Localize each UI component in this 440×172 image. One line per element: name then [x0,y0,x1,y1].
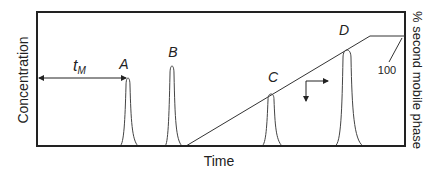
max-gradient-label: 100 [378,64,396,76]
right-axis-label: % second mobile phase [410,11,425,149]
peak-b [165,66,182,146]
peak-d [335,50,363,146]
dead-time-label: tM [73,57,86,76]
y-axis-label: Concentration [15,36,31,123]
x-axis-label: Time [204,153,235,169]
peak-label-b: B [168,44,177,60]
peak-a [120,78,138,146]
plot-frame [37,12,405,146]
chromatogram-diagram: A B C D tM 100 Time Concentration % seco… [0,0,440,172]
gradient-profile-line [186,36,405,146]
peak-label-c: C [268,69,279,85]
peak-c [262,94,282,146]
peak-label-d: D [339,22,349,38]
max-label-leader [389,38,402,62]
peak-label-a: A [118,56,128,72]
